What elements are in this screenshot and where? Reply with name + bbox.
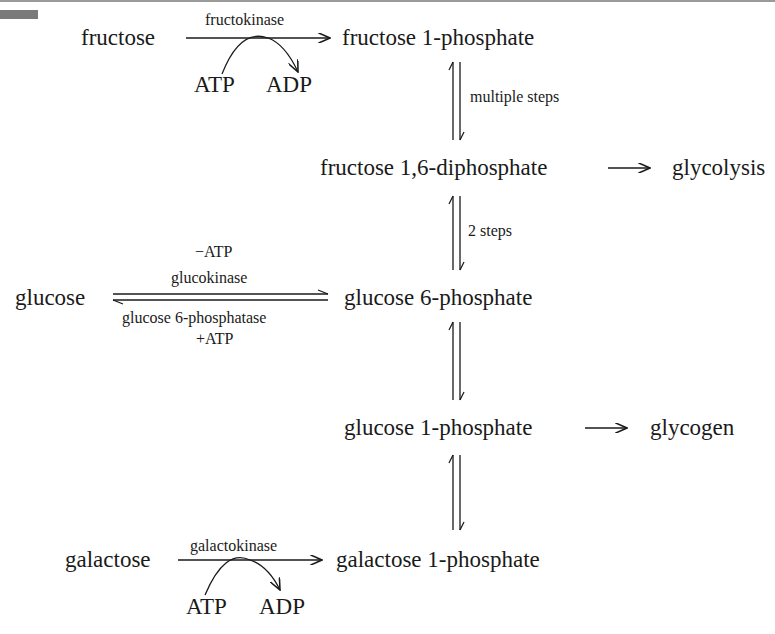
node-galactose: galactose bbox=[65, 547, 151, 573]
label-multiple-steps: multiple steps bbox=[470, 88, 559, 106]
enzyme-glucose-6-phosphatase: glucose 6-phosphatase bbox=[122, 309, 266, 327]
node-glycogen: glycogen bbox=[650, 415, 734, 441]
node-fructose-16-diphosphate: fructose 1,6-diphosphate bbox=[320, 155, 547, 181]
node-galactose-1-phosphate: galactose 1-phosphate bbox=[336, 547, 540, 573]
node-glucose: glucose bbox=[15, 285, 85, 311]
node-glucose-1-phosphate: glucose 1-phosphate bbox=[344, 415, 532, 441]
reaction-arrows bbox=[0, 0, 775, 634]
label-2-steps: 2 steps bbox=[468, 222, 512, 240]
node-glycolysis: glycolysis bbox=[672, 155, 765, 181]
node-fructose: fructose bbox=[81, 25, 155, 51]
cofactor-atp-galactose: ATP bbox=[186, 594, 227, 620]
cofactor-atp: ATP bbox=[194, 72, 235, 98]
cofactor-adp: ADP bbox=[266, 72, 312, 98]
enzyme-fructokinase: fructokinase bbox=[205, 11, 284, 29]
cofactor-minus-atp: −ATP bbox=[195, 243, 232, 261]
enzyme-galactokinase: galactokinase bbox=[190, 537, 277, 555]
node-glucose-6-phosphate: glucose 6-phosphate bbox=[344, 285, 532, 311]
cofactor-plus-atp: +ATP bbox=[196, 330, 233, 348]
atp-adp-curve-icon bbox=[222, 36, 298, 74]
cofactor-adp-galactose: ADP bbox=[259, 594, 305, 620]
enzyme-glucokinase: glucokinase bbox=[171, 269, 247, 287]
node-fructose-1-phosphate: fructose 1-phosphate bbox=[342, 25, 534, 51]
